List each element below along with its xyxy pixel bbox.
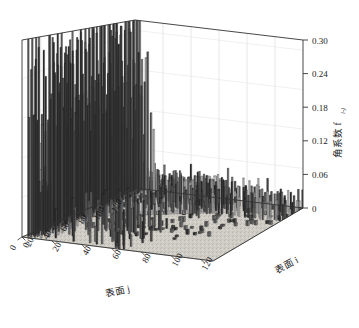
bar (267, 202, 269, 219)
bar (198, 208, 200, 218)
bar (116, 9, 118, 198)
bar (213, 219, 217, 223)
bar (201, 190, 203, 208)
bar (254, 197, 256, 218)
bar (147, 52, 149, 193)
z-tick-label-5: 0.30 (312, 36, 328, 46)
bar (217, 214, 221, 216)
bar (109, 222, 111, 230)
bar (230, 193, 232, 215)
y-axis-title-text: 表面 i (273, 254, 301, 276)
bar (194, 204, 196, 213)
bar (43, 180, 45, 230)
bar (199, 171, 201, 199)
bar (101, 24, 103, 205)
bar (177, 182, 179, 209)
z-axis: 0 0.06 0.12 0.18 0.24 0.30 (303, 36, 328, 214)
bar (206, 195, 208, 214)
bar (228, 187, 230, 203)
bar (127, 188, 129, 227)
bar (170, 192, 172, 205)
bar (269, 220, 273, 224)
bar (265, 220, 269, 224)
z-axis-title: 角系数 f i-j (332, 108, 347, 158)
z-tick-label-0: 0 (312, 204, 317, 214)
bar (80, 27, 82, 214)
bar (135, 201, 137, 234)
z-tick-label-4: 0.24 (312, 69, 328, 79)
bar (155, 191, 157, 197)
bar (186, 229, 190, 235)
bar (130, 235, 132, 247)
bar (220, 224, 224, 226)
bar (171, 219, 175, 223)
bar (96, 33, 98, 207)
x-axis-title-text: 表面 j (104, 283, 131, 299)
bar (185, 190, 187, 210)
bar (51, 94, 53, 227)
bar (68, 46, 70, 218)
bar (150, 227, 152, 242)
bar (28, 117, 30, 236)
bar (275, 200, 277, 221)
x-axis-tick (18, 237, 23, 240)
bar (238, 196, 240, 216)
bar (85, 49, 87, 212)
bar (107, 73, 109, 202)
bar (217, 190, 219, 204)
bar (190, 185, 192, 199)
bar (252, 193, 254, 217)
bar (117, 232, 119, 242)
bar (246, 220, 250, 226)
bar (140, 214, 142, 238)
bar (292, 202, 294, 222)
bar (154, 203, 156, 226)
bar (150, 113, 152, 192)
x-axis-title: 表面 j (104, 283, 131, 299)
bar (234, 191, 236, 215)
bar (153, 129, 155, 193)
bar (203, 174, 205, 201)
bar (40, 192, 42, 230)
chart-figure: 0 0.06 0.12 0.18 0.24 0.30 角系数 f i-j 020… (0, 0, 359, 328)
bar (256, 185, 258, 214)
bar (94, 226, 96, 242)
x-axis-label-0: 0 (7, 243, 18, 252)
bar (54, 73, 56, 225)
bar (308, 204, 310, 215)
bar (199, 226, 203, 231)
bar (160, 203, 162, 233)
bar (248, 195, 250, 218)
bar (250, 219, 254, 224)
bar (78, 101, 80, 215)
bar (174, 227, 178, 230)
bar (178, 216, 182, 221)
bar (190, 226, 194, 229)
bar (37, 121, 39, 233)
bar (209, 202, 211, 213)
bar (170, 228, 174, 233)
bar (192, 189, 194, 198)
bar (154, 228, 158, 231)
bar (179, 195, 181, 214)
bar (166, 218, 168, 228)
bar (122, 76, 124, 195)
bar (279, 205, 281, 221)
bar (215, 182, 217, 210)
bar (161, 188, 163, 199)
bar (33, 116, 35, 235)
bar (287, 190, 289, 212)
bar (124, 30, 126, 194)
bar (184, 193, 186, 212)
bar (135, 85, 137, 190)
bar (127, 15, 129, 192)
bar (173, 187, 175, 202)
bar (221, 177, 223, 214)
bar (137, 203, 139, 228)
bar (259, 197, 261, 219)
bar (196, 201, 198, 216)
bar (82, 74, 84, 213)
bar (304, 199, 306, 215)
bar (98, 83, 100, 205)
bar (168, 181, 170, 207)
